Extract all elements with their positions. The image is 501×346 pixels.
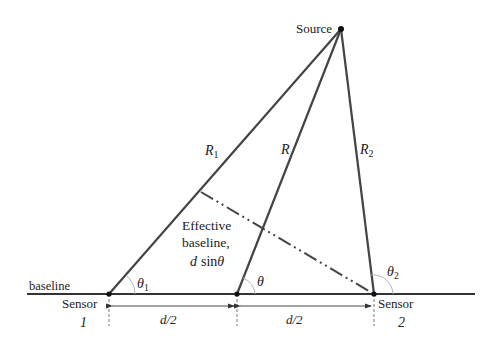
half-spacing-left-label: d/2	[160, 312, 177, 327]
center-point	[234, 291, 239, 296]
half-spacing-right-label: d/2	[286, 312, 303, 327]
range-line-r2	[341, 29, 374, 294]
theta2-label: θ2	[387, 264, 399, 281]
sensor2-label: Sensor	[378, 296, 414, 311]
theta-label: θ	[257, 274, 264, 289]
sensor1-label: Sensor	[62, 296, 98, 311]
r-label: R	[280, 142, 290, 157]
source-label: Source	[296, 21, 332, 36]
sensor2-number: 2	[398, 315, 405, 330]
effective-baseline-line1: Effective	[182, 218, 231, 233]
effective-baseline-line2: baseline,	[182, 235, 230, 250]
sensor1-point	[106, 291, 111, 296]
geometry-diagram: Source baseline R1 R R2 Effective baseli…	[0, 0, 501, 346]
r2-label: R2	[359, 142, 374, 159]
r1-label: R1	[204, 143, 219, 160]
theta-arc	[243, 278, 255, 294]
baseline-label: baseline	[29, 279, 70, 293]
sensor1-number: 1	[80, 315, 87, 330]
theta1-label: θ1	[137, 276, 149, 293]
sensor2-point	[371, 291, 376, 296]
theta1-arc	[126, 275, 135, 294]
source-point	[338, 26, 344, 32]
range-line-r	[237, 29, 341, 294]
effective-baseline-line3: dsinθ	[190, 254, 224, 269]
